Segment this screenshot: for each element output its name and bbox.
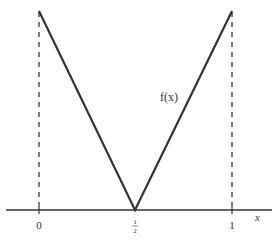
x-axis-label: x [254, 211, 260, 223]
f-curve [39, 11, 232, 210]
tick-label-0: 0 [36, 219, 42, 231]
function-diagram: 0 1 2 1 x f(x) [0, 0, 277, 240]
tick-label-half-num: 1 [133, 218, 137, 226]
tick-label-1: 1 [229, 219, 235, 231]
curve-label: f(x) [160, 90, 178, 104]
tick-label-half-den: 2 [133, 227, 137, 235]
